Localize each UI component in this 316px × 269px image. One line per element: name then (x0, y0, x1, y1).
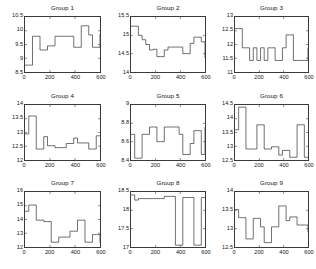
x-axis-ticklabels: 0200400600 (234, 250, 309, 258)
x-tick-label: 600 (304, 250, 313, 256)
y-axis-ticklabels: 12.51313.514 (213, 191, 233, 248)
subplot-9: Group 912.51313.5140200400600 (0, 0, 316, 269)
x-tick-label: 0 (232, 250, 235, 256)
y-tick-label: 13 (227, 226, 233, 232)
subplot-title: Group 9 (234, 179, 309, 187)
x-tick-label: 200 (254, 250, 263, 256)
y-tick-label: 12.5 (222, 245, 233, 251)
plot-area (234, 191, 309, 248)
data-trace (235, 206, 308, 243)
x-tick-label: 400 (279, 250, 288, 256)
figure-panel: Group 18.599.51010.50200400600Group 2141… (0, 0, 316, 269)
y-tick-label: 14 (227, 188, 233, 194)
y-tick-label: 13.5 (222, 207, 233, 213)
